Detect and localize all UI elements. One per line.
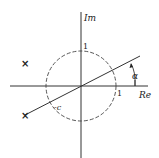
imag-unit-tick-label: 1 (83, 42, 88, 51)
real-unit-tick-label: 1 (117, 89, 122, 98)
lower-cross-marker: × (21, 110, 29, 121)
upper-cross-marker: × (21, 58, 29, 69)
complex-plane-diagram: Im Re 1 1 α -c × × (0, 0, 159, 158)
imag-axis-label: Im (83, 13, 96, 23)
angle-alpha-label: α (132, 71, 138, 81)
real-axis-label: Re (138, 90, 151, 100)
minus-c-label: -c (54, 103, 62, 112)
